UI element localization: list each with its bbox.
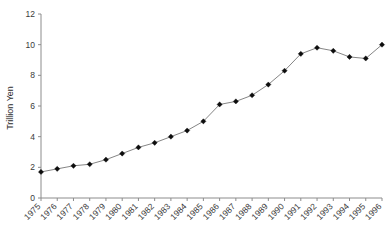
x-axis-tick-label: 1990 [266, 201, 287, 222]
y-axis-tick-label: 10 [26, 40, 36, 50]
data-point-marker [233, 99, 238, 104]
series-line [41, 45, 382, 172]
data-point-marker [38, 169, 43, 174]
data-point-marker [152, 140, 157, 145]
x-axis-tick-label: 1978 [71, 201, 92, 222]
data-point-marker [120, 151, 125, 156]
x-axis-tick-label: 1980 [103, 201, 124, 222]
x-axis-tick-label: 1991 [282, 201, 303, 222]
y-axis: 024681012 [26, 9, 41, 203]
data-point-marker [87, 162, 92, 167]
data-point-marker [331, 48, 336, 53]
x-axis-tick-label: 1996 [363, 201, 384, 222]
y-axis-tick-label: 4 [30, 132, 35, 142]
y-axis-tick-label: 12 [26, 9, 36, 19]
x-axis-tick-label: 1984 [168, 201, 189, 222]
x-axis-tick-label: 1994 [330, 201, 351, 222]
data-point-marker [71, 163, 76, 168]
x-axis-tick-label: 1989 [249, 201, 270, 222]
y-axis-tick-label: 2 [30, 162, 35, 172]
data-point-marker [249, 93, 254, 98]
line-chart: Trillion Yen 024681012 19751976197719781… [0, 0, 389, 237]
x-axis-tick-label: 1992 [298, 201, 319, 222]
x-axis-tick-label: 1985 [184, 201, 205, 222]
data-point-marker [55, 166, 60, 171]
x-axis: 1975197619771978197919801981198219831984… [22, 198, 384, 222]
data-point-marker [185, 128, 190, 133]
y-axis-tick-label: 8 [30, 70, 35, 80]
data-point-marker [103, 157, 108, 162]
x-axis-tick-label: 1988 [233, 201, 254, 222]
y-axis-title-text: Trillion Yen [5, 86, 15, 130]
x-axis-tick-label: 1987 [217, 201, 238, 222]
data-point-marker [168, 134, 173, 139]
x-axis-tick-label: 1995 [347, 201, 368, 222]
x-axis-tick-label: 1979 [87, 201, 108, 222]
y-axis-tick-label: 6 [30, 101, 35, 111]
data-point-marker [136, 145, 141, 150]
x-axis-tick-label: 1977 [54, 201, 75, 222]
x-axis-tick-label: 1983 [152, 201, 173, 222]
x-axis-tick-label: 1975 [22, 201, 43, 222]
chart-container: Trillion Yen 024681012 19751976197719781… [0, 0, 389, 237]
x-axis-tick-label: 1986 [201, 201, 222, 222]
x-axis-tick-label: 1976 [38, 201, 59, 222]
y-axis-title: Trillion Yen [5, 86, 15, 130]
x-axis-tick-label: 1982 [136, 201, 157, 222]
data-point-marker [347, 54, 352, 59]
data-series [38, 42, 384, 174]
data-point-marker [314, 45, 319, 50]
x-axis-tick-label: 1993 [314, 201, 335, 222]
x-axis-tick-label: 1981 [119, 201, 140, 222]
